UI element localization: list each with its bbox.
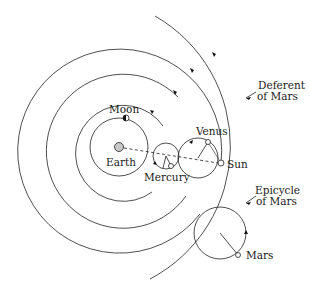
arrow-icon <box>153 161 157 165</box>
epicycle-label-2: of Mars <box>256 196 297 207</box>
mars-deferent <box>150 16 230 279</box>
sun-label: Sun <box>227 159 248 170</box>
mars-icon <box>236 253 241 258</box>
moon-label: Moon <box>109 104 139 115</box>
venus-label: Venus <box>196 126 228 137</box>
venus-deferent <box>46 74 186 228</box>
arrow-icon <box>244 230 248 234</box>
arrow-icon <box>189 140 193 144</box>
mars-radius <box>220 233 238 255</box>
venus-icon <box>206 140 211 145</box>
deferent-label-2: of Mars <box>257 91 298 102</box>
sun-icon <box>218 160 224 166</box>
arrow-icon <box>212 52 216 57</box>
arrow-icon <box>190 68 194 73</box>
earth-label: Earth <box>106 157 136 168</box>
mercury-deferent <box>76 105 163 201</box>
mercury-label: Mercury <box>144 172 190 183</box>
earth-sun-line <box>124 148 218 163</box>
earth-icon <box>115 143 124 152</box>
mars-label: Mars <box>246 250 273 261</box>
mercury-icon <box>169 164 174 169</box>
